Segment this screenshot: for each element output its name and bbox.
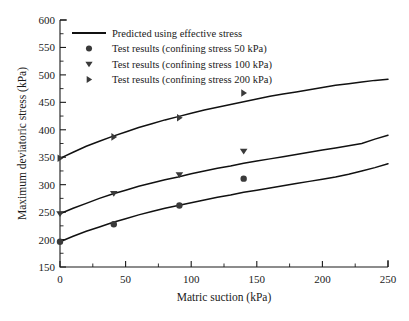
data-point-triangle-right <box>111 133 117 141</box>
data-point-triangle-down <box>85 62 92 67</box>
data-point-triangle-right <box>87 76 92 83</box>
legend-label-0: Predicted using effective stress <box>112 28 242 39</box>
y-tick-label: 450 <box>39 96 56 108</box>
data-point-triangle-right <box>241 89 247 97</box>
y-tick-label: 250 <box>39 206 56 218</box>
data-point-triangle-down <box>240 149 248 155</box>
y-tick-label: 150 <box>39 261 56 273</box>
prediction-curve <box>60 135 388 213</box>
deviatoric-stress-chart: 1502002503003504004505005506000501001502… <box>0 0 409 321</box>
legend-label-3: Test results (confining stress 200 kPa) <box>112 74 272 86</box>
x-tick-label: 150 <box>249 273 266 285</box>
chart-figure: 1502002503003504004505005506000501001502… <box>0 0 409 321</box>
data-point-circle <box>176 202 182 208</box>
y-tick-label: 300 <box>39 179 56 191</box>
x-tick-label: 100 <box>183 273 200 285</box>
data-point-triangle-down <box>56 211 64 217</box>
x-tick-label: 50 <box>120 273 132 285</box>
data-point-circle <box>111 221 117 227</box>
y-tick-label: 600 <box>39 14 56 26</box>
y-tick-label: 200 <box>39 234 56 246</box>
y-tick-label: 350 <box>39 151 56 163</box>
x-axis-title: Matric suction (kPa) <box>177 291 272 304</box>
y-tick-label: 500 <box>39 69 56 81</box>
y-axis-title: Maximum deviatoric stress (kPa) <box>16 67 29 220</box>
x-tick-label: 200 <box>314 273 331 285</box>
prediction-curve <box>60 164 388 242</box>
data-point-circle <box>57 239 63 245</box>
prediction-curve <box>60 79 388 158</box>
legend-label-1: Test results (confining stress 50 kPa) <box>112 43 267 55</box>
x-tick-label: 250 <box>380 273 397 285</box>
data-point-circle <box>240 175 246 181</box>
x-tick-label: 0 <box>57 273 63 285</box>
data-point-circle <box>86 45 92 51</box>
axis-spines <box>60 20 388 267</box>
y-tick-label: 550 <box>39 41 56 53</box>
y-tick-label: 400 <box>39 124 56 136</box>
legend-label-2: Test results (confining stress 100 kPa) <box>112 59 272 71</box>
